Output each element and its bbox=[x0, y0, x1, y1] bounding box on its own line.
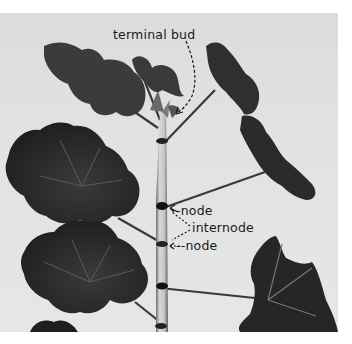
internode-label: internode bbox=[192, 222, 254, 235]
leaf-lower-left bbox=[21, 220, 148, 313]
plant-illustration bbox=[0, 13, 338, 332]
node-upper-label: -node bbox=[176, 205, 213, 218]
plant-photograph bbox=[0, 13, 338, 332]
leaf-bottom-fragment bbox=[30, 320, 78, 332]
node-lower-label: --node bbox=[176, 240, 217, 253]
leaf-lower-right bbox=[239, 236, 338, 332]
leaf-upper-left bbox=[44, 43, 146, 117]
leaf-right-middle bbox=[240, 116, 315, 200]
terminal-bud-label: terminal bud bbox=[113, 29, 195, 42]
terminal-bud-arrow bbox=[176, 41, 195, 114]
leaf-middle-left bbox=[6, 123, 140, 224]
stem bbox=[150, 90, 170, 332]
leaf-upper-right bbox=[206, 43, 259, 115]
